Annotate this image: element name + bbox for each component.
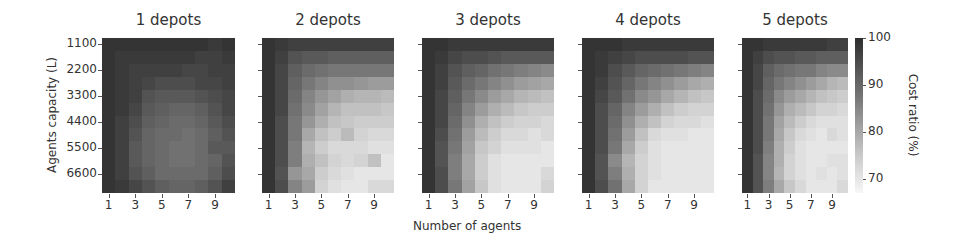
heatmap-cell	[753, 51, 764, 64]
heatmap-cell	[129, 167, 142, 180]
y-tick	[258, 122, 262, 123]
heatmap-cell	[288, 154, 301, 167]
heatmap-cell	[435, 38, 448, 51]
heatmap-cell	[328, 180, 341, 193]
heatmap-cell	[763, 128, 774, 141]
heatmap-cell	[595, 51, 608, 64]
colorbar-tick	[863, 179, 866, 180]
heatmap-cell	[795, 180, 806, 193]
heatmap-cell	[674, 167, 687, 180]
heatmap-cell	[341, 77, 354, 90]
heatmap-cell	[328, 51, 341, 64]
heatmap-cell	[302, 64, 315, 77]
heatmap-cell	[195, 154, 208, 167]
heatmap-cell	[514, 51, 527, 64]
heatmap-cell	[422, 167, 435, 180]
heatmap-cell	[541, 116, 554, 129]
x-tick-label: 5	[631, 198, 651, 212]
heatmap-cell	[742, 167, 753, 180]
y-tick	[578, 148, 582, 149]
y-tick	[578, 70, 582, 71]
heatmap-cell	[315, 103, 328, 116]
heatmap-cell	[674, 116, 687, 129]
heatmap-cell	[837, 116, 848, 129]
x-tick-label: 5	[152, 198, 172, 212]
heatmap-cell	[381, 90, 394, 103]
heatmap-cell	[541, 90, 554, 103]
heatmap-cell	[368, 103, 381, 116]
y-tick	[418, 148, 422, 149]
y-tick-label: 5500	[57, 140, 97, 154]
heatmap-cell	[753, 180, 764, 193]
heatmap-cell	[155, 38, 168, 51]
heatmap-panel-1-depot: 1 depots 13579110022003300440055006600	[102, 38, 235, 193]
heatmap-cell	[501, 90, 514, 103]
heatmap-cell	[528, 141, 541, 154]
heatmap-cell	[354, 103, 367, 116]
heatmap-cell	[475, 51, 488, 64]
heatmap-cell	[142, 51, 155, 64]
x-tick-label: 1	[579, 198, 599, 212]
heatmap-cell	[514, 167, 527, 180]
heatmap-cell	[222, 51, 235, 64]
y-tick-label: 4400	[57, 114, 97, 128]
heatmap-cell	[622, 77, 635, 90]
heatmap-cell	[195, 103, 208, 116]
heatmap-cell	[837, 38, 848, 51]
heatmap-cell	[222, 167, 235, 180]
heatmap-cell	[688, 141, 701, 154]
heatmap-cell	[129, 90, 142, 103]
heatmap-cell	[129, 51, 142, 64]
heatmap-cell	[169, 180, 182, 193]
heatmap-cell	[648, 90, 661, 103]
heatmap-cell	[222, 116, 235, 129]
heatmap-cell	[275, 180, 288, 193]
heatmap-cell	[115, 128, 128, 141]
heatmap-cell	[784, 167, 795, 180]
heatmap-cell	[514, 77, 527, 90]
heatmap-cell	[648, 51, 661, 64]
heatmap-cell	[195, 180, 208, 193]
heatmap-cell	[488, 180, 501, 193]
heatmap-cell	[688, 167, 701, 180]
heatmap-cell	[354, 167, 367, 180]
heatmap-cell	[528, 116, 541, 129]
heatmap-cell	[315, 128, 328, 141]
heatmap-cell	[827, 180, 838, 193]
heatmap-cell	[701, 141, 714, 154]
heatmap-cell	[795, 116, 806, 129]
heatmap-cell	[115, 51, 128, 64]
heatmap-cell	[784, 103, 795, 116]
heatmap-cell	[475, 154, 488, 167]
heatmap-cell	[155, 154, 168, 167]
heatmap-cell	[528, 77, 541, 90]
y-tick	[418, 96, 422, 97]
heatmap-cell	[514, 141, 527, 154]
heatmap-cell	[435, 116, 448, 129]
heatmap-cell	[795, 154, 806, 167]
heatmap-cell	[288, 103, 301, 116]
x-tick-label: 9	[364, 198, 384, 212]
heatmap-cell	[102, 38, 115, 51]
heatmap-cell	[208, 51, 221, 64]
heatmap-grid	[582, 38, 714, 193]
heatmap-cell	[528, 128, 541, 141]
heatmap-cell	[622, 128, 635, 141]
heatmap-cell	[142, 103, 155, 116]
heatmap-cell	[262, 180, 275, 193]
heatmap-cell	[622, 167, 635, 180]
heatmap-cell	[222, 103, 235, 116]
heatmap-cell	[806, 116, 817, 129]
heatmap-cell	[368, 38, 381, 51]
heatmap-cell	[635, 180, 648, 193]
heatmap-cell	[354, 77, 367, 90]
heatmap-panel-2-depots: 2 depots 13579	[262, 38, 394, 193]
heatmap-cell	[514, 38, 527, 51]
heatmap-cell	[169, 154, 182, 167]
heatmap-cell	[784, 90, 795, 103]
heatmap-cell	[102, 103, 115, 116]
heatmap-cell	[115, 116, 128, 129]
heatmap-cell	[142, 38, 155, 51]
heatmap-cell	[514, 64, 527, 77]
heatmap-cell	[381, 77, 394, 90]
